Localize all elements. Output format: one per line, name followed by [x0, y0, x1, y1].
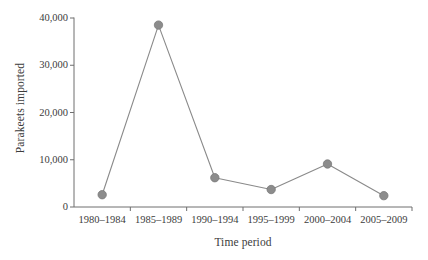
data-point-marker: [380, 191, 388, 199]
data-point-marker: [323, 160, 331, 168]
axis-lines: [74, 18, 412, 208]
data-point-marker: [211, 174, 219, 182]
data-point-marker: [154, 21, 162, 29]
plot-area: [0, 0, 428, 260]
data-line: [102, 25, 384, 196]
data-point-marker: [267, 185, 275, 193]
chart-figure: Parakeets imported 010,00020,00030,00040…: [0, 0, 428, 260]
data-point-marker: [98, 191, 106, 199]
